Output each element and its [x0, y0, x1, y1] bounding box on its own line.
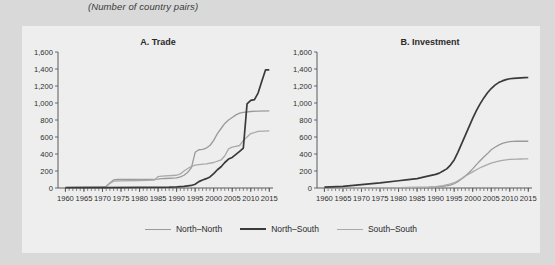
svg-text:2005: 2005 [483, 194, 500, 203]
svg-text:1990: 1990 [427, 194, 444, 203]
legend-label-south-south: South–South [368, 224, 417, 234]
series-line [324, 141, 528, 188]
figure-subtitle: (Number of country pairs) [88, 1, 198, 12]
svg-text:400: 400 [40, 150, 53, 159]
svg-text:2010: 2010 [242, 194, 259, 203]
legend-label-north-south: North–South [271, 224, 319, 234]
svg-text:2000: 2000 [205, 194, 222, 203]
svg-text:1995: 1995 [446, 194, 463, 203]
svg-text:1960: 1960 [57, 194, 74, 203]
svg-text:200: 200 [299, 167, 312, 176]
legend-item-north-south: North–South [240, 224, 319, 234]
svg-text:1,400: 1,400 [34, 65, 53, 74]
svg-text:1980: 1980 [390, 194, 407, 203]
svg-text:1980: 1980 [131, 194, 148, 203]
svg-text:1990: 1990 [168, 194, 185, 203]
svg-text:1965: 1965 [334, 194, 351, 203]
svg-text:0: 0 [308, 184, 312, 193]
svg-text:2015: 2015 [261, 194, 278, 203]
svg-text:1960: 1960 [316, 194, 333, 203]
svg-text:2000: 2000 [464, 194, 481, 203]
svg-text:1995: 1995 [187, 194, 204, 203]
series-line [324, 78, 528, 188]
svg-text:600: 600 [40, 133, 53, 142]
svg-text:1985: 1985 [150, 194, 167, 203]
svg-text:1985: 1985 [409, 194, 426, 203]
svg-text:1,400: 1,400 [293, 65, 312, 74]
svg-text:1970: 1970 [353, 194, 370, 203]
svg-text:1,000: 1,000 [34, 99, 53, 108]
chart-panel: A. Trade B. Investment 02004006008001,00… [22, 26, 540, 253]
chart-a-plot: 02004006008001,0001,2001,4001,6001960196… [22, 48, 281, 224]
series-line [65, 70, 269, 188]
svg-text:1965: 1965 [75, 194, 92, 203]
chart-b-title: B. Investment [370, 37, 490, 47]
svg-text:1,200: 1,200 [293, 82, 312, 91]
svg-text:2010: 2010 [501, 194, 518, 203]
svg-text:1970: 1970 [94, 194, 111, 203]
legend-swatch-south-south [337, 229, 363, 230]
series-line [324, 159, 528, 188]
svg-text:1,600: 1,600 [34, 48, 53, 57]
svg-text:800: 800 [40, 116, 53, 125]
svg-text:2015: 2015 [520, 194, 537, 203]
svg-text:0: 0 [49, 184, 53, 193]
svg-text:1,600: 1,600 [293, 48, 312, 57]
chart-a-title: A. Trade [98, 37, 218, 47]
legend-item-north-north: North–North [145, 224, 222, 234]
svg-text:800: 800 [299, 116, 312, 125]
chart-b-plot: 02004006008001,0001,2001,4001,6001960196… [281, 48, 540, 224]
svg-text:1,200: 1,200 [34, 82, 53, 91]
legend: North–North North–South South–South [22, 224, 540, 234]
legend-swatch-north-north [145, 229, 171, 230]
svg-text:200: 200 [40, 167, 53, 176]
svg-text:600: 600 [299, 133, 312, 142]
figure-root: (Number of country pairs) A. Trade B. In… [0, 0, 555, 265]
svg-text:1,000: 1,000 [293, 99, 312, 108]
svg-text:2005: 2005 [224, 194, 241, 203]
legend-label-north-north: North–North [176, 224, 222, 234]
svg-text:1975: 1975 [372, 194, 389, 203]
svg-text:400: 400 [299, 150, 312, 159]
legend-swatch-north-south [240, 228, 266, 230]
svg-text:1975: 1975 [113, 194, 130, 203]
legend-item-south-south: South–South [337, 224, 417, 234]
